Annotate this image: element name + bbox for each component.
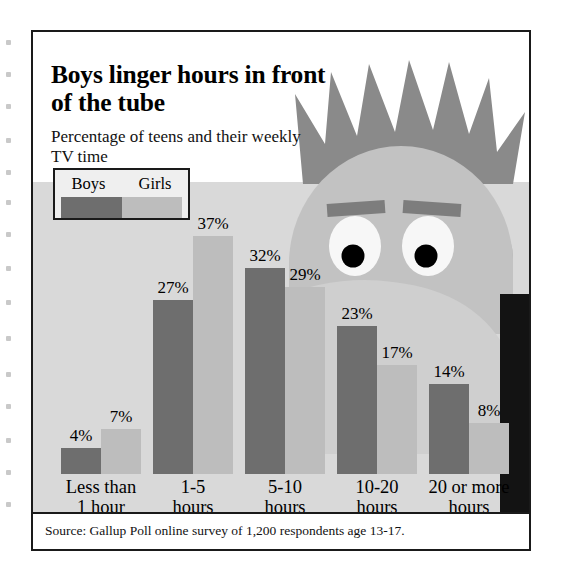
bar-rect bbox=[285, 287, 325, 474]
bar-rect bbox=[337, 326, 377, 474]
margin-text-fragment bbox=[6, 200, 11, 205]
bar-value-label: 27% bbox=[157, 278, 188, 298]
bar-group: 27%37%1-5hours bbox=[153, 236, 233, 474]
margin-text-fragment bbox=[6, 404, 11, 409]
margin-text-fragment bbox=[6, 138, 11, 143]
bar-boys-1: 27% bbox=[153, 300, 193, 474]
bar-rect bbox=[61, 448, 101, 474]
category-label-line: 10-20 bbox=[355, 478, 398, 498]
bar-value-label: 23% bbox=[341, 304, 372, 324]
bar-rect bbox=[153, 300, 193, 474]
page-title: Boys linger hours in front of the tube bbox=[51, 61, 351, 116]
bar-rect bbox=[245, 268, 285, 474]
margin-text-fragment bbox=[6, 40, 11, 45]
bar-rect bbox=[469, 423, 509, 474]
margin-text-fragment bbox=[6, 72, 11, 77]
margin-text-fragment bbox=[6, 438, 11, 443]
grouped-bar-chart: 4%7%Less than1 hour27%37%1-5hours32%29%5… bbox=[43, 182, 513, 512]
subtitle: Percentage of teens and their weekly TV … bbox=[51, 127, 311, 168]
bar-rect bbox=[429, 384, 469, 474]
margin-text-fragment bbox=[6, 300, 11, 305]
margin-text-fragment bbox=[6, 104, 11, 109]
bar-value-label: 37% bbox=[197, 214, 228, 234]
bar-group: 14%8%20 or morehours bbox=[429, 384, 509, 474]
bar-value-label: 17% bbox=[381, 343, 412, 363]
category-label-line: 1-5 bbox=[172, 478, 213, 498]
bar-group: 23%17%10-20hours bbox=[337, 326, 417, 474]
category-label-line: 20 or more bbox=[428, 478, 509, 498]
margin-text-fragment bbox=[6, 170, 11, 175]
bar-girls-3: 17% bbox=[377, 365, 417, 474]
bar-boys-3: 23% bbox=[337, 326, 377, 474]
bar-boys-4: 14% bbox=[429, 384, 469, 474]
margin-text-fragment bbox=[6, 502, 11, 507]
bar-group: 4%7%Less than1 hour bbox=[61, 429, 141, 474]
bar-value-label: 7% bbox=[110, 407, 133, 427]
bar-group: 32%29%5-10hours bbox=[245, 268, 325, 474]
bar-girls-4: 8% bbox=[469, 423, 509, 474]
bar-value-label: 8% bbox=[478, 401, 501, 421]
infographic-panel: Boys linger hours in front of the tube P… bbox=[31, 30, 531, 551]
bar-value-label: 14% bbox=[433, 362, 464, 382]
bar-boys-0: 4% bbox=[61, 448, 101, 474]
bar-girls-0: 7% bbox=[101, 429, 141, 474]
bar-girls-1: 37% bbox=[193, 236, 233, 474]
bar-value-label: 32% bbox=[249, 246, 280, 266]
bar-rect bbox=[193, 236, 233, 474]
bar-rect bbox=[377, 365, 417, 474]
margin-text-fragment bbox=[6, 232, 11, 237]
bar-rect bbox=[101, 429, 141, 474]
category-label-line: 5-10 bbox=[264, 478, 305, 498]
category-label-line: Less than bbox=[66, 478, 136, 498]
margin-text-fragment bbox=[6, 266, 11, 271]
margin-text-fragment bbox=[6, 372, 11, 377]
source-note: Source: Gallup Poll online survey of 1,2… bbox=[45, 523, 405, 539]
margin-text-fragment bbox=[6, 336, 11, 341]
bar-boys-2: 32% bbox=[245, 268, 285, 474]
bar-value-label: 29% bbox=[289, 265, 320, 285]
bar-value-label: 4% bbox=[70, 426, 93, 446]
margin-text-fragment bbox=[6, 470, 11, 475]
page-margin-bleed bbox=[0, 0, 30, 576]
source-bar: Source: Gallup Poll online survey of 1,2… bbox=[33, 512, 529, 549]
bar-girls-2: 29% bbox=[285, 287, 325, 474]
